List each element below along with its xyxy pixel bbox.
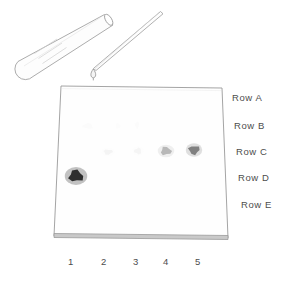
chromatography-spot	[114, 122, 122, 131]
chromatography-spot	[132, 146, 143, 156]
row-label-d: Row D	[238, 172, 270, 183]
column-label-2: 2	[97, 256, 111, 267]
chromatography-spot	[134, 120, 141, 131]
column-label-1: 1	[64, 256, 78, 267]
row-label-c: Row C	[236, 146, 268, 157]
column-label-5: 5	[191, 256, 205, 267]
chromatography-spot	[65, 167, 88, 185]
chromatography-spot	[80, 122, 97, 131]
diagram-canvas	[0, 0, 291, 282]
tlc-plate	[54, 86, 228, 240]
chromatography-spot	[101, 148, 115, 156]
chromatography-spot	[186, 143, 203, 157]
tlc-diagram-figure: Row A Row B Row C Row D Row E 1 2 3 4 5	[0, 0, 291, 282]
chromatography-spot	[158, 145, 175, 158]
solvent-droplet	[91, 69, 96, 80]
column-label-3: 3	[129, 256, 143, 267]
column-label-4: 4	[159, 256, 173, 267]
row-label-e: Row E	[241, 199, 272, 210]
row-label-b: Row B	[234, 120, 265, 131]
test-tube	[15, 13, 115, 80]
row-label-a: Row A	[232, 92, 262, 103]
